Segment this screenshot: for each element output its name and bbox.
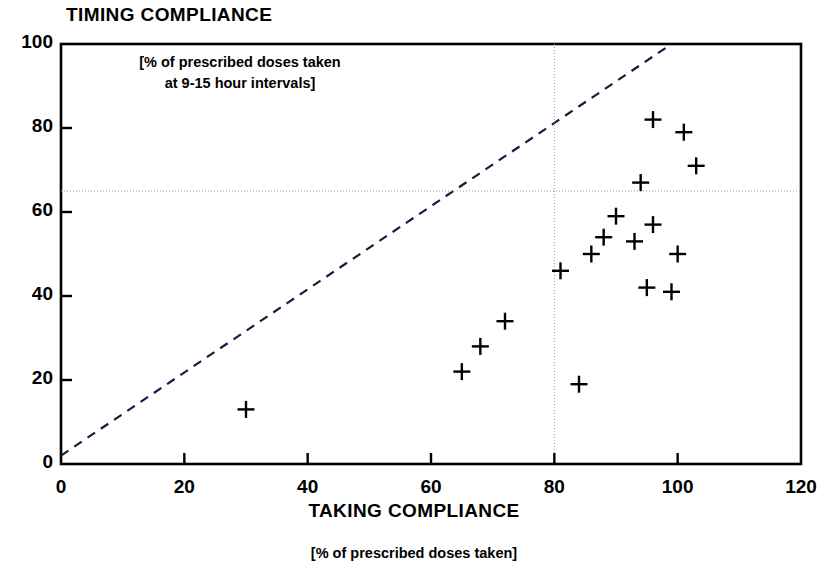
data-point bbox=[472, 338, 489, 355]
y-tick-label-40: 40 bbox=[1, 283, 53, 305]
y-tick-label-60: 60 bbox=[1, 199, 53, 221]
x-tick-label-60: 60 bbox=[401, 476, 461, 498]
data-point bbox=[571, 376, 588, 393]
data-point bbox=[453, 363, 470, 380]
x-tick-label-100: 100 bbox=[648, 476, 708, 498]
data-point bbox=[583, 246, 600, 263]
data-point bbox=[688, 157, 705, 174]
x-tick-label-120: 120 bbox=[771, 476, 828, 498]
x-tick-label-80: 80 bbox=[524, 476, 584, 498]
y-tick-label-20: 20 bbox=[1, 367, 53, 389]
x-tick-label-0: 0 bbox=[31, 476, 91, 498]
data-point bbox=[238, 401, 255, 418]
x-tick-label-40: 40 bbox=[278, 476, 338, 498]
data-point bbox=[608, 208, 625, 225]
data-point bbox=[626, 233, 643, 250]
data-point bbox=[645, 216, 662, 233]
data-point bbox=[669, 246, 686, 263]
y-tick-label-100: 100 bbox=[1, 31, 53, 53]
data-point bbox=[663, 283, 680, 300]
data-point bbox=[552, 262, 569, 279]
data-point bbox=[675, 124, 692, 141]
identity-diagonal bbox=[61, 44, 672, 456]
data-point bbox=[595, 229, 612, 246]
x-axis-title: TAKING COMPLIANCE bbox=[0, 500, 828, 522]
x-tick-label-20: 20 bbox=[154, 476, 214, 498]
data-point bbox=[497, 313, 514, 330]
data-point bbox=[638, 279, 655, 296]
y-tick-label-0: 0 bbox=[1, 451, 53, 473]
axis-ticks bbox=[61, 128, 678, 464]
scatter-chart-figure: TIMING COMPLIANCE [% of prescribed doses… bbox=[0, 0, 828, 585]
reference-lines bbox=[61, 44, 801, 464]
data-point-markers bbox=[238, 111, 705, 418]
y-tick-label-80: 80 bbox=[1, 115, 53, 137]
x-axis-unit-note: [% of prescribed doses taken] bbox=[0, 545, 828, 561]
data-point bbox=[632, 174, 649, 191]
data-point bbox=[645, 111, 662, 128]
axis-frame bbox=[61, 44, 801, 464]
